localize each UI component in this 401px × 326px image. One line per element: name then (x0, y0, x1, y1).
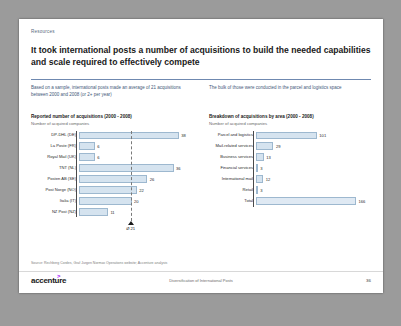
bar-value-label: 26 (150, 177, 155, 182)
bar-value-label: 13 (266, 155, 271, 160)
presentation-slide: Resources It took international posts a … (19, 19, 383, 293)
bar-category-label: Total (209, 199, 256, 204)
bar-value-label: 6 (97, 144, 99, 149)
bar (79, 142, 95, 150)
bar-value-label: 101 (319, 133, 326, 138)
bar-track: 3 (256, 163, 371, 173)
chart-bar-row: Total166 (209, 196, 371, 206)
bar-category-label: Business services (209, 155, 256, 160)
bar-category-label: Retail (209, 188, 256, 193)
average-marker-icon (128, 221, 134, 225)
bar-track: 26 (79, 174, 199, 184)
bar-category-label: International mail (209, 177, 256, 182)
bar (79, 197, 132, 205)
chart-axis (76, 131, 77, 217)
average-guideline (131, 131, 132, 221)
chart-bar-row: Italia (IT)20 (31, 196, 199, 206)
bar-category-label: NZ Post (NZ) (31, 210, 79, 215)
bar-category-label: TNT (NL) (31, 166, 79, 171)
bar (79, 208, 108, 216)
bar-category-label: DP-DHL (DE) (31, 133, 79, 138)
bar-category-label: La Poste (FR) (31, 144, 79, 149)
bar-track: 3 (256, 185, 371, 195)
bar-track: 166 (256, 196, 371, 206)
left-chart-subtitle: Number of acquired companies (31, 121, 199, 126)
chart-axis (253, 131, 254, 207)
bar (256, 142, 273, 150)
bar (256, 132, 317, 140)
bar-track: 13 (256, 152, 371, 162)
bar-value-label: 29 (276, 144, 281, 149)
bar-value-label: 6 (97, 155, 99, 160)
chart-bar-row: Retail3 (209, 185, 371, 195)
chart-bar-row: Royal Mail (UK)6 (31, 152, 199, 162)
bar-track: 29 (256, 141, 371, 151)
bar-category-label: Italia (IT) (31, 199, 79, 204)
right-bar-chart: Parcel and logistics101Mail-related serv… (209, 131, 371, 207)
chart-bar-row: Business services13 (209, 152, 371, 162)
intro-text-right: The bulk of those were conducted in the … (209, 85, 371, 92)
bar-track: 36 (79, 163, 199, 173)
chart-bar-row: La Poste (FR)6 (31, 141, 199, 151)
bar-track: 12 (256, 174, 371, 184)
bar-value-label: 166 (359, 199, 366, 204)
chart-bar-row: NZ Post (NZ)11 (31, 207, 199, 217)
bar-track: 20 (79, 196, 199, 206)
left-bar-chart: DP-DHL (DE)38La Poste (FR)6Royal Mail (U… (31, 131, 199, 217)
bar-value-label: 38 (181, 133, 186, 138)
bar-value-label: 3 (260, 188, 262, 193)
bar-category-label: Royal Mail (UK) (31, 155, 79, 160)
bar-track: 6 (79, 152, 199, 162)
screenshot-backdrop: Resources It took international posts a … (0, 0, 401, 326)
footer-title: Diversification of International Posts (19, 278, 383, 283)
bar-category-label: Mail-related services (209, 144, 256, 149)
bar-value-label: 3 (260, 166, 262, 171)
bar (79, 164, 174, 172)
chart-bar-row: International mail12 (209, 174, 371, 184)
left-chart-title: Reported number of acquisitions (2000 - … (31, 114, 199, 119)
bar (79, 132, 179, 140)
slide-headline: It took international posts a number of … (31, 44, 371, 68)
chart-bar-row: TNT (NL)36 (31, 163, 199, 173)
bar (256, 153, 264, 161)
chart-panel-acquisitions-by-post: Reported number of acquisitions (2000 - … (31, 114, 199, 218)
chart-bar-row: Mail-related services29 (209, 141, 371, 151)
bar-value-label: 12 (266, 177, 271, 182)
chart-bar-row: Posten AB (SE)26 (31, 174, 199, 184)
page-number: 36 (366, 278, 371, 283)
bar-category-label: Post Norge (NO) (31, 188, 79, 193)
chart-bar-row: DP-DHL (DE)38 (31, 131, 199, 141)
intro-text-left: Based on a sample, international posts m… (31, 85, 191, 99)
bar-category-label: Parcel and logistics (209, 133, 256, 138)
bar-category-label: Posten AB (SE) (31, 177, 79, 182)
right-chart-title: Breakdown of acquisitions by area (2000 … (209, 114, 371, 119)
bar (256, 197, 356, 205)
bar-track: 22 (79, 185, 199, 195)
bar (256, 186, 258, 194)
chart-panel-acquisitions-by-area: Breakdown of acquisitions by area (2000 … (209, 114, 371, 207)
bar-category-label: Financial services (209, 166, 256, 171)
chart-bar-row: Post Norge (NO)22 (31, 185, 199, 195)
source-note: Source: Rechberg Cordes, Graf Jurgen Nor… (31, 261, 167, 265)
footer-divider (19, 271, 383, 272)
bar-value-label: 22 (139, 188, 144, 193)
slide-kicker: Resources (31, 29, 55, 34)
bar-value-label: 36 (176, 166, 181, 171)
chart-bar-row: Financial services3 (209, 163, 371, 173)
headline-divider (31, 79, 371, 80)
average-label: Ø 21 (126, 226, 135, 231)
bar-track: 11 (79, 207, 199, 217)
bar (79, 186, 137, 194)
chart-bar-row: Parcel and logistics101 (209, 131, 371, 141)
bar (79, 153, 95, 161)
bar-value-label: 20 (134, 199, 139, 204)
right-chart-subtitle: Number of acquired companies (209, 121, 371, 126)
bar-track: 6 (79, 141, 199, 151)
bar (79, 175, 147, 183)
bar-track: 38 (79, 131, 199, 141)
bar (256, 164, 258, 172)
bar-track: 101 (256, 131, 371, 141)
bar (256, 175, 263, 183)
bar-value-label: 11 (110, 210, 114, 215)
